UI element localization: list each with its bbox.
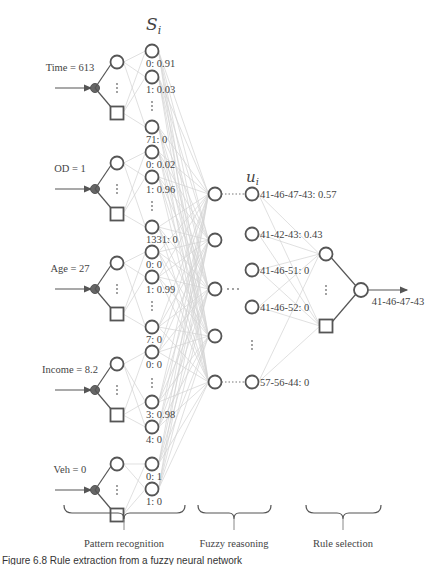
s-node: [146, 121, 159, 134]
vertical-ellipsis: [251, 344, 253, 346]
vertical-ellipsis: [251, 340, 253, 342]
fuzzy-neural-network-diagram: Time = 6130: 0.911: 0.0371: 0OD = 10: 0.…: [0, 0, 436, 565]
horizontal-ellipsis: [232, 288, 234, 290]
u-node-label: 57-56-44: 0: [260, 377, 309, 388]
membership-square-node: [111, 107, 124, 120]
s-node-label: 7: 0: [146, 334, 162, 345]
section-label-fuzzy-reasoning: Fuzzy reasoning: [199, 538, 269, 549]
s-node-label: 0: 0.02: [146, 159, 175, 170]
membership-square-node: [111, 308, 124, 321]
u-i-header: ui: [246, 168, 259, 187]
u-node: [246, 264, 259, 277]
vertical-ellipsis: [116, 489, 118, 491]
u-node: [246, 301, 259, 314]
membership-node: [111, 358, 124, 371]
u-node-label: 41-46-51: 0: [260, 265, 309, 276]
u-node-label: 41-46-52: 0: [260, 302, 309, 313]
s-node-label: 0: 0: [146, 259, 162, 270]
u-node: [246, 228, 259, 241]
membership-square-node: [111, 509, 124, 522]
u-node: [246, 188, 259, 201]
vertical-ellipsis: [116, 91, 118, 93]
u-node-label: 41-46-47-43: 0.57: [260, 189, 336, 200]
vertical-ellipsis: [325, 293, 327, 295]
vertical-ellipsis: [325, 285, 327, 287]
vertical-ellipsis: [116, 389, 118, 391]
vertical-ellipsis: [151, 382, 153, 384]
vertical-ellipsis: [251, 348, 253, 350]
input-label: Age = 27: [50, 263, 89, 274]
s-node: [146, 321, 159, 334]
horizontal-ellipsis: [237, 288, 239, 290]
vertical-ellipsis: [151, 305, 153, 307]
input-label: Veh = 0: [54, 464, 87, 475]
section-label-pattern-recognition: Pattern recognition: [84, 538, 165, 549]
u-node: [246, 376, 259, 389]
vertical-ellipsis: [116, 284, 118, 286]
s-node: [146, 458, 159, 471]
s-node-label: 71: 0: [146, 134, 167, 145]
input-label: Time = 613: [46, 62, 95, 73]
vertical-ellipsis: [151, 378, 153, 380]
vertical-ellipsis: [116, 184, 118, 186]
figure-caption: Figure 6.8 Rule extraction from a fuzzy …: [2, 555, 243, 565]
s-node: [146, 271, 159, 284]
input-label: OD = 1: [54, 163, 86, 174]
s-node: [146, 146, 159, 159]
s-node-label: 1: 0.03: [146, 84, 175, 95]
vertical-ellipsis: [151, 105, 153, 107]
s-node: [146, 396, 159, 409]
vertical-ellipsis: [151, 201, 153, 203]
vertical-ellipsis: [116, 188, 118, 190]
s-node-label: 0: 0.91: [146, 58, 175, 69]
s-i-header: Si: [146, 14, 161, 37]
s-node-label: 1: 0.99: [146, 284, 175, 295]
fuzzy-node: [209, 188, 222, 201]
s-node-label: 4: 0: [146, 434, 162, 445]
horizontal-ellipsis: [227, 288, 229, 290]
membership-node: [111, 157, 124, 170]
fuzzy-node: [209, 283, 222, 296]
vertical-ellipsis: [116, 292, 118, 294]
membership-node: [111, 56, 124, 69]
membership-node: [111, 458, 124, 471]
rule-node: [320, 248, 333, 261]
vertical-ellipsis: [116, 493, 118, 495]
vertical-ellipsis: [151, 309, 153, 311]
fuzzy-node: [209, 376, 222, 389]
vertical-ellipsis: [116, 83, 118, 85]
rule-square-node: [320, 320, 333, 333]
s-node: [146, 246, 159, 259]
s-node: [146, 421, 159, 434]
vertical-ellipsis: [151, 209, 153, 211]
s-node-label: 1331: 0: [146, 234, 178, 245]
vertical-ellipsis: [116, 87, 118, 89]
vertical-ellipsis: [151, 386, 153, 388]
network-nodes: [55, 45, 407, 522]
vertical-ellipsis: [151, 109, 153, 111]
s-node-label: 0: 1: [146, 471, 162, 482]
vertical-ellipsis: [116, 192, 118, 194]
s-node: [146, 171, 159, 184]
fuzzy-node: [209, 330, 222, 343]
s-node-label: 3: 0.98: [146, 409, 175, 420]
vertical-ellipsis: [116, 385, 118, 387]
vertical-ellipsis: [116, 288, 118, 290]
membership-square-node: [111, 208, 124, 221]
output-label: 41-46-47-43: [372, 296, 425, 307]
s-node-label: 1: 0: [146, 496, 162, 507]
vertical-ellipsis: [151, 301, 153, 303]
s-node: [146, 346, 159, 359]
vertical-ellipsis: [325, 289, 327, 291]
membership-square-node: [111, 409, 124, 422]
input-label: Income = 8.2: [42, 364, 98, 375]
vertical-ellipsis: [116, 393, 118, 395]
s-node-label: 0: 0: [146, 359, 162, 370]
section-label-rule-selection: Rule selection: [313, 538, 374, 549]
fuzzy-node: [209, 234, 222, 247]
s-node: [146, 221, 159, 234]
u-node-label: 41-42-43: 0.43: [260, 229, 322, 240]
s-node: [146, 71, 159, 84]
output-node: [354, 283, 368, 297]
s-node: [146, 45, 159, 58]
